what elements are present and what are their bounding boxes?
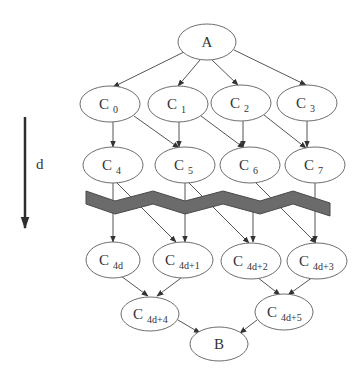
- node-C7: C 7: [285, 147, 345, 183]
- node-C4d+2: C 4d+2: [221, 243, 281, 279]
- edge-A-C1: [178, 60, 200, 86]
- svg-text:4d+5: 4d+5: [281, 312, 302, 323]
- omitted-levels-band: [86, 191, 330, 216]
- svg-text:1: 1: [181, 104, 186, 115]
- svg-text:4d+3: 4d+3: [313, 261, 334, 272]
- edge-C4d1-C4d4: [157, 278, 181, 296]
- node-C4d+4: C 4d+4: [121, 297, 179, 331]
- axis-label: d: [36, 156, 44, 172]
- edge-C4d4-B: [178, 320, 200, 333]
- node-C3: C 3: [277, 85, 337, 121]
- node-C1: C 1: [148, 86, 208, 122]
- edge-C4d2-C4d5: [257, 277, 280, 295]
- svg-text:C: C: [174, 157, 184, 173]
- svg-text:5: 5: [188, 165, 193, 176]
- svg-text:C: C: [230, 95, 240, 111]
- svg-text:C: C: [133, 306, 143, 322]
- svg-text:B: B: [214, 336, 224, 352]
- svg-text:C: C: [239, 157, 249, 173]
- edge-C4d5-B: [240, 320, 257, 333]
- svg-text:4d+2: 4d+2: [247, 261, 268, 272]
- node-C4: C 4: [83, 147, 143, 183]
- svg-text:C: C: [299, 253, 309, 269]
- edge-C5-C4d2: [187, 181, 249, 243]
- svg-text:6: 6: [253, 165, 258, 176]
- edge-A-C2: [212, 60, 238, 85]
- node-C4d+1: C 4d+1: [153, 242, 213, 278]
- edge-A-C0: [113, 52, 184, 87]
- lattice-diagram: d A: [0, 0, 362, 376]
- svg-text:C: C: [304, 157, 314, 173]
- svg-text:4d+4: 4d+4: [147, 314, 168, 325]
- svg-text:0: 0: [113, 104, 118, 115]
- svg-text:C: C: [99, 96, 109, 112]
- svg-text:2: 2: [244, 103, 249, 114]
- node-C6: C 6: [220, 147, 280, 183]
- edge-C4d-C4d4: [121, 276, 148, 296]
- svg-text:C: C: [267, 304, 277, 320]
- svg-text:4: 4: [116, 165, 121, 176]
- svg-text:4d+1: 4d+1: [179, 260, 200, 271]
- node-C5: C 5: [155, 147, 215, 183]
- edge-A-C3: [234, 50, 306, 85]
- svg-text:C: C: [102, 157, 112, 173]
- node-C4d+3: C 4d+3: [287, 243, 347, 279]
- svg-text:7: 7: [318, 165, 323, 176]
- svg-text:C: C: [233, 253, 243, 269]
- edge-C4d3-C4d5: [288, 277, 313, 295]
- svg-text:C: C: [99, 252, 109, 268]
- node-C0: C 0: [80, 86, 140, 122]
- node-C2: C 2: [211, 85, 271, 121]
- svg-text:C: C: [167, 96, 177, 112]
- node-C4d: C 4d: [86, 242, 140, 278]
- svg-text:4d: 4d: [113, 260, 123, 271]
- node-C4d+5: C 4d+5: [255, 294, 313, 330]
- svg-text:3: 3: [310, 103, 315, 114]
- node-B: B: [190, 327, 248, 361]
- depth-axis: d: [25, 117, 44, 228]
- svg-text:C: C: [296, 95, 306, 111]
- node-A: A: [178, 24, 236, 60]
- svg-text:A: A: [202, 34, 213, 50]
- svg-text:C: C: [165, 252, 175, 268]
